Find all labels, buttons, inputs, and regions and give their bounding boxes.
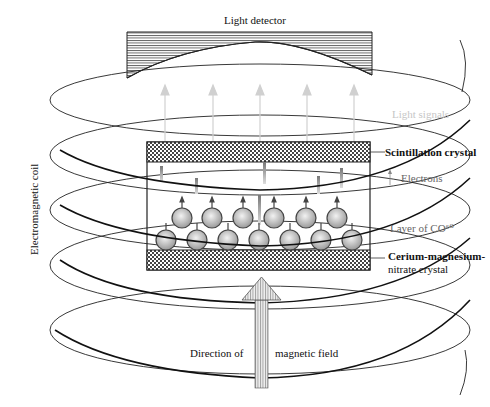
light-detector: [127, 32, 372, 78]
light-detector-label: Light detector: [224, 14, 286, 27]
electromagnetic-coil-label: Electromagnetic coil: [28, 164, 41, 255]
light-signals-label: Light signals: [392, 108, 449, 121]
electrons-label: Electrons: [401, 172, 443, 185]
magnetic-field-label: magnetic field: [275, 347, 338, 360]
cerium-crystal-layer: [147, 250, 370, 270]
magnetic-field-arrow: [242, 277, 281, 388]
layer-co60-label: Layer of CO⁶⁰: [390, 222, 454, 235]
cerium-crystal-label-line2: nitrate crystal: [388, 263, 448, 276]
direction-of-label: Direction of: [190, 347, 243, 360]
scintillation-crystal-layer: [147, 142, 370, 162]
cerium-crystal-label-line1: Cerium-magnesium-: [388, 250, 485, 263]
scintillation-crystal-label: Scintillation crystal: [385, 146, 476, 159]
experiment-diagram: [0, 0, 490, 407]
